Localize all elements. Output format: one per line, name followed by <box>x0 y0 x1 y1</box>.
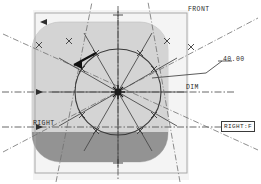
annotation-front[interactable]: FRONT <box>188 6 210 13</box>
annotation-right[interactable]: RIGHT <box>33 120 55 127</box>
annotation-dim[interactable]: DIM <box>186 84 199 91</box>
center-hub-marker[interactable] <box>111 85 125 99</box>
cad-drawing-canvas[interactable] <box>0 0 261 184</box>
annotation-dimension-value[interactable]: 40.00 <box>223 56 245 63</box>
cad-graphics-window[interactable]: FRONT 40.00 DIM RIGHT RIGHT:F <box>0 0 261 184</box>
part-shadow <box>32 132 168 162</box>
annotation-right-f-badge[interactable]: RIGHT:F <box>221 121 255 132</box>
